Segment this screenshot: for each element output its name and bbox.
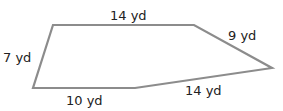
side-label-upper-right: 9 yd — [228, 29, 256, 42]
side-label-top: 14 yd — [110, 9, 147, 22]
side-label-bottom-left: 10 yd — [66, 94, 103, 107]
side-label-bottom-right: 14 yd — [185, 84, 222, 97]
side-label-left: 7 yd — [3, 51, 31, 64]
pentagon-figure: 14 yd 9 yd 7 yd 10 yd 14 yd — [0, 0, 283, 111]
